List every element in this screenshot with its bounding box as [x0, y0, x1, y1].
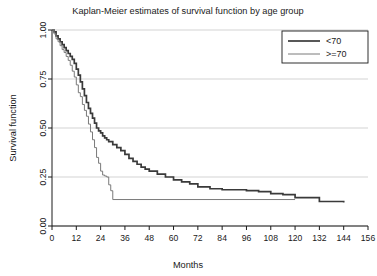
legend-label-old: >=70 [326, 49, 347, 59]
y-tick-label-4: 1.00 [38, 21, 48, 38]
y-tick-label-1: 0.25 [38, 168, 48, 185]
x-tick-label-5: 60 [169, 233, 179, 243]
y-tick-label-2: 0.50 [38, 119, 48, 136]
kaplan-meier-chart-figure: Kaplan-Meier estimates of survival funct… [0, 0, 377, 276]
x-tick-label-0: 0 [50, 233, 55, 243]
x-tick-label-4: 48 [144, 233, 154, 243]
legend-frame [282, 31, 368, 63]
chart-title: Kaplan-Meier estimates of survival funct… [72, 6, 303, 16]
x-tick-label-13: 156 [361, 233, 376, 243]
x-tick-label-3: 36 [120, 233, 130, 243]
x-axis-title: Months [173, 260, 204, 270]
x-tick-label-9: 108 [264, 233, 279, 243]
y-tick-label-3: 0.75 [38, 70, 48, 87]
chart-legend: <70 >=70 [282, 31, 368, 63]
y-tick-label-0: 0.00 [38, 217, 48, 234]
x-tick-label-8: 96 [242, 233, 252, 243]
x-tick-label-6: 72 [193, 233, 203, 243]
x-tick-label-2: 24 [96, 233, 106, 243]
x-tick-label-7: 84 [217, 233, 227, 243]
x-tick-label-10: 120 [288, 233, 303, 243]
x-tick-label-11: 132 [312, 233, 327, 243]
x-tick-label-12: 144 [337, 233, 352, 243]
chart-canvas: Kaplan-Meier estimates of survival funct… [0, 0, 377, 276]
x-tick-label-1: 12 [72, 233, 82, 243]
y-axis-title: Survival function [8, 94, 18, 161]
legend-label-young: <70 [326, 36, 341, 46]
